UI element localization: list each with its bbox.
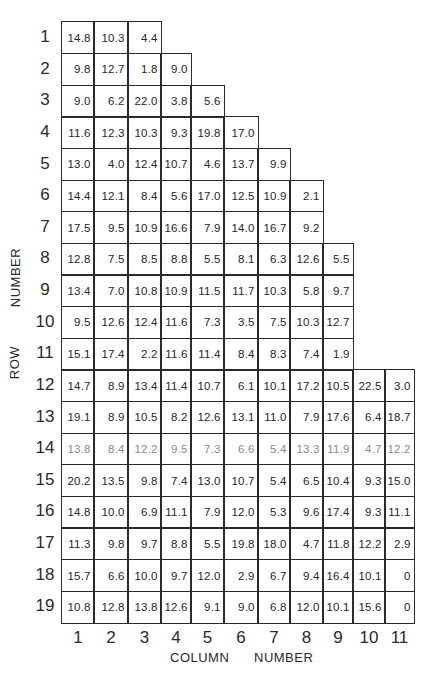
table-cell: 7.4 xyxy=(160,464,191,497)
table-cell: 12.7 xyxy=(93,53,128,86)
table-cell: 12.0 xyxy=(289,591,323,624)
table-cell: 10.3 xyxy=(93,21,128,54)
row-label: 6 xyxy=(30,185,60,205)
table-cell: 9.2 xyxy=(289,211,323,244)
table-cell: 12.8 xyxy=(61,243,94,276)
row-label: 2 xyxy=(30,59,60,79)
table-cell: 10.0 xyxy=(93,496,128,529)
table-cell: 19.8 xyxy=(190,116,224,149)
table-cell: 7.3 xyxy=(190,306,224,339)
table-cell: 6.7 xyxy=(257,559,290,592)
table-cell: 11.6 xyxy=(160,306,191,339)
table-cell: 10.4 xyxy=(322,464,353,497)
column-label: 5 xyxy=(193,628,223,648)
y-axis-label-row: ROW xyxy=(7,346,22,379)
table-cell: 14.0 xyxy=(223,211,258,244)
table-cell: 12.4 xyxy=(127,306,161,339)
column-label: 1 xyxy=(63,628,93,648)
table-cell: 22.5 xyxy=(352,369,385,402)
table-cell: 14.4 xyxy=(61,180,94,213)
table-cell: 10.1 xyxy=(322,591,353,624)
table-cell: 12.6 xyxy=(93,306,128,339)
table-cell: 0 xyxy=(384,591,414,624)
table-cell: 12.3 xyxy=(93,116,128,149)
table-cell: 5.8 xyxy=(289,274,323,307)
row-label: 11 xyxy=(30,343,60,363)
x-axis-label-number: NUMBER xyxy=(254,650,313,665)
table-cell: 10.8 xyxy=(61,591,94,624)
row-label: 16 xyxy=(30,501,60,521)
table-cell: 8.4 xyxy=(93,433,128,466)
table-cell: 7.0 xyxy=(93,274,128,307)
row-label: 9 xyxy=(30,280,60,300)
table-cell: 12.2 xyxy=(352,527,385,560)
table-cell: 4.0 xyxy=(93,148,128,181)
table-cell: 9.4 xyxy=(289,559,323,592)
table-cell: 16.4 xyxy=(322,559,353,592)
table-cell: 9.7 xyxy=(322,274,353,307)
table-cell: 6.9 xyxy=(127,496,161,529)
y-axis-label-number: NUMBER xyxy=(8,248,23,307)
table-cell: 7.9 xyxy=(190,496,224,529)
table-cell: 14.7 xyxy=(61,369,94,402)
row-label: 13 xyxy=(30,407,60,427)
row-label: 7 xyxy=(30,217,60,237)
table-cell: 9.3 xyxy=(352,496,385,529)
row-label: 17 xyxy=(30,533,60,553)
table-cell: 12.2 xyxy=(384,433,414,466)
table-cell: 12.0 xyxy=(223,496,258,529)
column-label: 3 xyxy=(130,628,160,648)
table-cell: 3.5 xyxy=(223,306,258,339)
table-cell: 11.1 xyxy=(160,496,191,529)
table-cell: 12.1 xyxy=(93,180,128,213)
table-cell: 1.8 xyxy=(127,53,161,86)
table-cell: 10.1 xyxy=(352,559,385,592)
table-cell: 11.4 xyxy=(160,369,191,402)
table-cell: 15.6 xyxy=(352,591,385,624)
table-cell: 9.6 xyxy=(289,496,323,529)
table-cell: 8.3 xyxy=(257,338,290,371)
table-cell: 16.7 xyxy=(257,211,290,244)
table-cell: 19.1 xyxy=(61,401,94,434)
table-cell: 12.5 xyxy=(223,180,258,213)
table-cell: 9.7 xyxy=(160,559,191,592)
table-cell: 16.6 xyxy=(160,211,191,244)
table-cell: 12.7 xyxy=(322,306,353,339)
table-cell: 13.0 xyxy=(61,148,94,181)
table-cell: 15.7 xyxy=(61,559,94,592)
table-cell: 13.5 xyxy=(93,464,128,497)
table-cell: 7.5 xyxy=(93,243,128,276)
table-cell: 19.8 xyxy=(223,527,258,560)
table-cell: 8.2 xyxy=(160,401,191,434)
table-cell: 2.9 xyxy=(384,527,414,560)
table-cell: 2.2 xyxy=(127,338,161,371)
table-cell: 12.4 xyxy=(127,148,161,181)
table-cell: 6.1 xyxy=(223,369,258,402)
table-cell: 8.4 xyxy=(127,180,161,213)
table-cell: 5.3 xyxy=(257,496,290,529)
table-cell: 22.0 xyxy=(127,85,161,118)
table-cell: 5.4 xyxy=(257,464,290,497)
table-cell: 10.5 xyxy=(127,401,161,434)
table-cell: 9.9 xyxy=(257,148,290,181)
table-cell: 6.3 xyxy=(257,243,290,276)
row-label: 10 xyxy=(30,312,60,332)
table-cell: 9.3 xyxy=(352,464,385,497)
table-cell: 8.8 xyxy=(160,243,191,276)
table-cell: 18.7 xyxy=(384,401,414,434)
row-label: 8 xyxy=(30,248,60,268)
table-cell: 11.9 xyxy=(322,433,353,466)
table-cell: 12.2 xyxy=(127,433,161,466)
table-cell: 12.0 xyxy=(190,559,224,592)
table-cell: 17.2 xyxy=(289,369,323,402)
table-cell: 20.2 xyxy=(61,464,94,497)
table-cell: 7.5 xyxy=(257,306,290,339)
table-cell: 4.7 xyxy=(289,527,323,560)
table-cell: 5.4 xyxy=(257,433,290,466)
table-cell: 10.7 xyxy=(190,369,224,402)
table-cell: 10.7 xyxy=(223,464,258,497)
table-cell: 2.1 xyxy=(289,180,323,213)
table-cell: 7.4 xyxy=(289,338,323,371)
column-label: 2 xyxy=(96,628,126,648)
table-cell: 4.6 xyxy=(190,148,224,181)
